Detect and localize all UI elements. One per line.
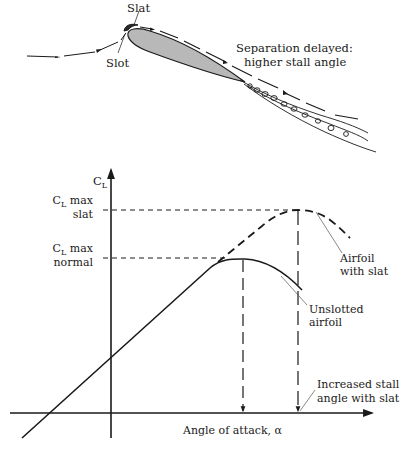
incoming-streamline xyxy=(27,33,126,57)
slot-label: Slot xyxy=(106,56,129,70)
diagram-canvas: Slat Slot Separation delayed: higher sta… xyxy=(0,0,400,454)
x-axis-label: Angle of attack, α xyxy=(182,424,283,437)
stall-annotation-leader xyxy=(300,390,315,411)
wake-lower-line xyxy=(244,84,376,152)
slat-curve-label-2: with slat xyxy=(340,265,389,278)
unslotted-curve xyxy=(22,259,302,438)
stall-annotation-1: Increased stall xyxy=(317,378,400,391)
stall-annotation-2: angle with slat xyxy=(317,392,400,405)
airfoil-body xyxy=(128,29,245,82)
unslotted-curve-label-1: Unslotted xyxy=(309,303,364,316)
slat-label: Slat xyxy=(127,1,150,15)
caption-line2: higher stall angle xyxy=(244,55,347,69)
cl-max-slat-label: CL max xyxy=(53,194,94,209)
cl-max-normal-label-2: normal xyxy=(54,256,94,269)
cl-max-slat-label-2: slat xyxy=(73,208,94,221)
cl-max-normal-label: CL max xyxy=(53,242,94,257)
slat-curve xyxy=(218,210,350,262)
slot-leader xyxy=(118,34,125,53)
airfoil-figure: Slat Slot Separation delayed: higher sta… xyxy=(27,1,376,152)
lift-curve-chart: CL Angle of attack, α CL max slat CL max… xyxy=(10,170,400,438)
y-axis-label: CL xyxy=(93,174,108,190)
unslotted-curve-label-2: airfoil xyxy=(309,316,343,329)
unslotted-curve-leader xyxy=(281,276,307,305)
wake-vortices xyxy=(248,84,349,137)
slat-curve-label-1: Airfoil xyxy=(339,252,375,265)
caption-line1: Separation delayed: xyxy=(236,41,353,55)
slat-curve-leader xyxy=(316,212,342,253)
